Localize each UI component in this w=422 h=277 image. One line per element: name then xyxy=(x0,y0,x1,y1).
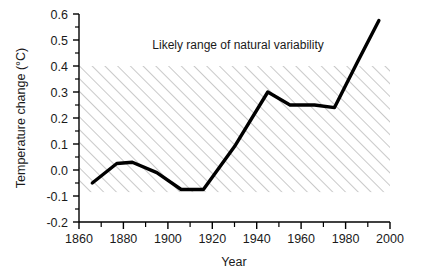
x-tick-label-1940: 1940 xyxy=(243,232,271,246)
y-tick-label-0.1: 0.1 xyxy=(51,138,68,152)
y-tick-label-0.2: 0.2 xyxy=(51,112,68,126)
natural-variability-band xyxy=(79,66,390,192)
y-tick-label-0.4: 0.4 xyxy=(51,60,68,74)
y-tick-label-0.6: 0.6 xyxy=(51,8,68,22)
y-tick-label-0.3: 0.3 xyxy=(51,86,68,100)
natural-variability-band-fill xyxy=(79,66,390,192)
x-tick-label-1900: 1900 xyxy=(154,232,182,246)
x-tick-label-1920: 1920 xyxy=(198,232,226,246)
natural-variability-annotation-label: Likely range of natural variability xyxy=(152,38,323,52)
x-tick-label-1880: 1880 xyxy=(109,232,137,246)
x-tick-label-2000: 2000 xyxy=(376,232,404,246)
y-tick-label-0.5: 0.5 xyxy=(51,34,68,48)
y-axis-title: Temperature change (°C) xyxy=(14,48,28,188)
temperature-change-line-chart: 0.6 0.5 0.4 0.3 0.2 0.1 0.0 -0.1 -0.2 Te… xyxy=(0,0,422,277)
y-tick-label-0.0: 0.0 xyxy=(51,164,68,178)
y-tick-label-neg0.2: -0.2 xyxy=(46,216,68,230)
x-tick-label-1960: 1960 xyxy=(287,232,315,246)
y-axis-tick-labels: 0.6 0.5 0.4 0.3 0.2 0.1 0.0 -0.1 -0.2 xyxy=(46,8,68,230)
x-tick-label-1980: 1980 xyxy=(332,232,360,246)
chart-figure: 0.6 0.5 0.4 0.3 0.2 0.1 0.0 -0.1 -0.2 Te… xyxy=(0,0,422,277)
x-tick-label-1860: 1860 xyxy=(65,232,93,246)
x-axis-title: Year xyxy=(221,255,246,269)
y-tick-label-neg0.1: -0.1 xyxy=(46,190,68,204)
